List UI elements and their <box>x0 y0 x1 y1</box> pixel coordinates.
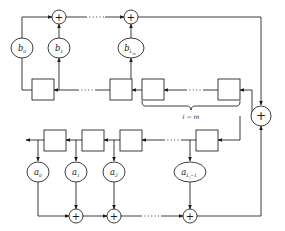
summing-junction-symbol: + <box>256 109 266 123</box>
adder-top-2-symbol: + <box>127 12 135 23</box>
gain-b1-sub: 1 <box>60 49 63 54</box>
brace-label: i − m <box>183 113 200 120</box>
delay-top-3 <box>142 79 164 100</box>
gain-bLm <box>118 38 144 58</box>
brace-i-minus-m <box>142 101 240 110</box>
gain-b0-sub: 0 <box>23 49 26 54</box>
delay-top-2 <box>110 79 132 100</box>
filter-diagram-svg: + + + + + + b0 b1 bLm a0 a1 a2 aLi−1 i −… <box>0 0 285 231</box>
adder-top-1-symbol: + <box>55 12 63 23</box>
gain-a2-sub: 2 <box>114 173 118 178</box>
delay-bottom-3 <box>120 130 142 151</box>
delay-top-1 <box>32 79 54 100</box>
delay-top-4 <box>218 79 240 100</box>
filter-diagram: + + + + + + b0 b1 bLm a0 a1 a2 aLi−1 i −… <box>0 0 285 231</box>
adder-bottom-1-symbol: + <box>72 211 80 222</box>
gain-a0-sub: 0 <box>39 173 42 178</box>
adder-bottom-2-symbol: + <box>110 211 118 222</box>
gain-bLm-subsub: m <box>133 52 136 56</box>
delay-bottom-1 <box>44 130 66 151</box>
gain-a1-sub: 1 <box>77 173 80 178</box>
wire-a0-to-adder <box>38 182 69 216</box>
gain-aLi1-tail: −1 <box>190 173 196 178</box>
delay-bottom-2 <box>82 130 104 151</box>
delay-bottom-4 <box>196 130 218 151</box>
adder-bottom-3-symbol: + <box>186 211 194 222</box>
